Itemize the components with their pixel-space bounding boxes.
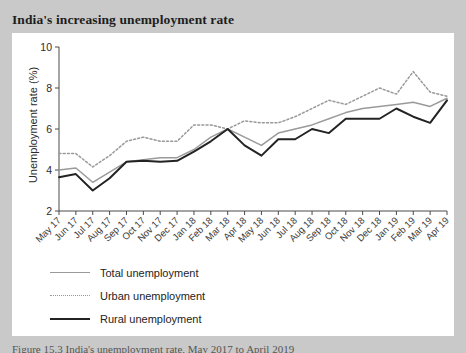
chart-card: 246810May 17Jun 17Jul 17Aug 17Sep 17Oct … [12,33,454,336]
legend-label-urban: Urban unemployment [100,290,205,302]
chart-legend: Total unemployment Urban unemployment Ru… [50,261,205,330]
legend-item-urban: Urban unemployment [50,284,205,307]
legend-item-rural: Rural unemployment [50,307,205,330]
legend-item-total: Total unemployment [50,261,205,284]
legend-swatch-urban [50,290,90,302]
legend-swatch-rural [50,313,90,325]
figure-page: India's increasing unemployment rate 246… [0,0,466,353]
svg-text:6: 6 [46,123,52,135]
legend-swatch-total [50,267,90,279]
y-axis-title: Unemployment rate (%) [27,60,39,190]
figure-caption: Figure 15.3 India's unemployment rate, M… [12,343,452,353]
svg-text:10: 10 [40,41,52,53]
legend-label-total: Total unemployment [100,267,198,279]
legend-label-rural: Rural unemployment [100,313,202,325]
page-title: India's increasing unemployment rate [12,12,234,28]
svg-text:2: 2 [46,205,52,217]
svg-text:4: 4 [46,164,52,176]
svg-text:8: 8 [46,82,52,94]
